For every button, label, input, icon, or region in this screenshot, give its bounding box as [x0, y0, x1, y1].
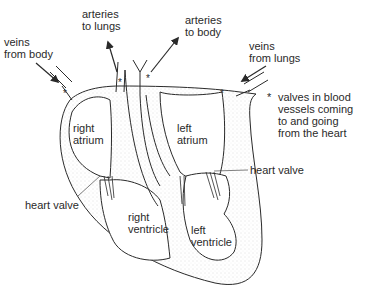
label-veins-from-lungs: veins from lungs	[249, 40, 300, 64]
heart-illustration: * * * *	[0, 0, 375, 296]
valve-marker-aorta: *	[146, 73, 150, 84]
arrow-arteries-to-body	[151, 38, 178, 72]
valve-marker-vena-cava: *	[63, 88, 67, 99]
label-left-ventricle: left ventricle	[191, 224, 232, 248]
arrow-veins-from-body	[36, 63, 58, 82]
label-heart-valve-right: heart valve	[250, 164, 304, 176]
valve-marker-pulmonary-vein: *	[220, 88, 224, 99]
vena-cava	[50, 66, 72, 100]
legend-marker: *	[267, 91, 271, 103]
arrow-arteries-to-lungs	[108, 42, 117, 72]
label-veins-from-body: veins from body	[4, 36, 53, 60]
label-left-atrium: left atrium	[177, 122, 208, 146]
legend: * valves in blood vessels coming to and …	[267, 91, 353, 139]
heart-diagram: * * * * veins from body arteries to lung…	[0, 0, 375, 296]
label-right-ventricle: right ventricle	[128, 211, 169, 235]
label-arteries-to-body: arteries to body	[185, 14, 222, 38]
label-heart-valve-left: heart valve	[25, 199, 79, 211]
legend-text: valves in blood vessels coming to and go…	[267, 91, 353, 139]
label-arteries-to-lungs: arteries to lungs	[82, 8, 121, 32]
valve-marker-pulmonary-artery: *	[118, 77, 122, 88]
label-right-atrium: right atrium	[73, 122, 104, 146]
